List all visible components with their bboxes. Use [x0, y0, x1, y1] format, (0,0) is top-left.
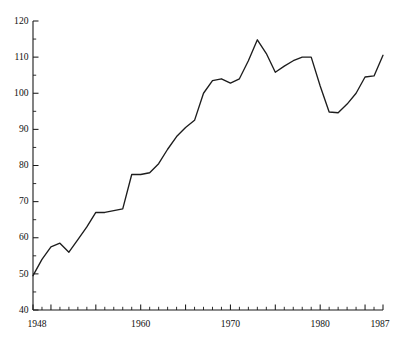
y-axis-tick-label: 100	[14, 87, 29, 98]
y-axis-tick-label: 90	[19, 123, 29, 134]
y-axis-tick-label: 60	[19, 231, 29, 242]
y-axis-tick-label: 50	[19, 268, 29, 279]
y-axis-tick-label: 120	[14, 15, 29, 26]
x-axis-tick-label: 1948	[27, 318, 46, 329]
x-axis-tick-label: 1960	[131, 318, 150, 329]
x-axis: 19481960197019801987	[27, 305, 389, 330]
y-axis-tick-label: 80	[19, 159, 29, 170]
x-axis-tick-label: 1980	[311, 318, 330, 329]
line-chart: 405060708090100110120 194819601970198019…	[0, 0, 406, 342]
y-axis-tick-label: 40	[19, 304, 29, 315]
y-axis-tick-label: 70	[19, 195, 29, 206]
y-axis-tick-label: 110	[14, 51, 28, 62]
x-axis-tick-label: 1987	[370, 318, 389, 329]
chart-container: 405060708090100110120 194819601970198019…	[0, 0, 406, 342]
y-axis: 405060708090100110120	[14, 15, 38, 315]
data-series-line	[33, 40, 383, 276]
data-series-group	[33, 40, 383, 276]
x-axis-tick-label: 1970	[221, 318, 240, 329]
